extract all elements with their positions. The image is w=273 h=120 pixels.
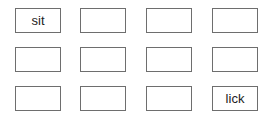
grid-cell-button[interactable]	[15, 86, 61, 111]
grid-cell-button[interactable]: lick	[212, 86, 258, 111]
grid-cell-button[interactable]	[146, 86, 192, 111]
grid-cell-button[interactable]	[212, 47, 258, 72]
grid-cell-button[interactable]	[80, 8, 126, 33]
grid-cell-button[interactable]	[80, 47, 126, 72]
grid-cell-button[interactable]	[146, 8, 192, 33]
grid-cell-button[interactable]	[15, 47, 61, 72]
grid-cell-button[interactable]: sit	[15, 8, 61, 33]
grid-cell-button[interactable]	[80, 86, 126, 111]
grid-cell-button[interactable]	[212, 8, 258, 33]
grid-cell-button[interactable]	[146, 47, 192, 72]
